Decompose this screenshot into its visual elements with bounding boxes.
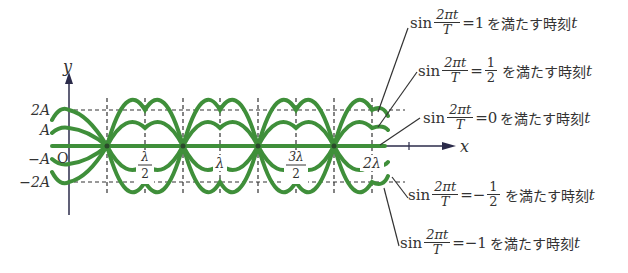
y-tick-minus-2A: −2A <box>19 174 50 190</box>
origin-label: O <box>57 150 68 166</box>
y-tick-2A: 2A <box>30 102 50 118</box>
svg-text:λ: λ <box>215 155 225 171</box>
svg-text:λ: λ <box>140 150 149 164</box>
x-tick-lambda: λ <box>213 155 227 171</box>
y-tick-A: A <box>38 122 50 138</box>
x-tick-half-lambda: λ 2 <box>136 150 154 184</box>
wave-curves <box>52 100 388 192</box>
annotation-sin-equals-minus-1: sin 2πtT =−1 を満たす時刻t <box>400 228 580 257</box>
svg-text:2: 2 <box>292 167 300 181</box>
annotation-sin-equals-half: sin 2πtT = 12 を満たす時刻t <box>418 56 592 85</box>
y-axis-label: y <box>62 57 73 76</box>
annotation-sin-equals-0: sin 2πtT =0 を満たす時刻t <box>423 103 590 132</box>
leader-lines <box>378 28 420 246</box>
y-tick-minus-A: −A <box>28 151 50 167</box>
svg-text:3λ: 3λ <box>288 150 303 164</box>
x-axis-label: x <box>460 137 469 156</box>
svg-text:2λ: 2λ <box>362 155 381 171</box>
x-tick-three-half-lambda: 3λ 2 <box>284 150 308 184</box>
annotation-sin-equals-minus-half: sin 2πtT =− 12 を満たす時刻t <box>408 180 595 209</box>
x-axis-arrow-icon <box>442 142 456 150</box>
x-tick-two-lambda: 2λ <box>360 155 384 171</box>
annotation-sin-equals-1: sin 2πtT =1 を満たす時刻t <box>410 8 577 37</box>
svg-text:2: 2 <box>141 167 149 181</box>
